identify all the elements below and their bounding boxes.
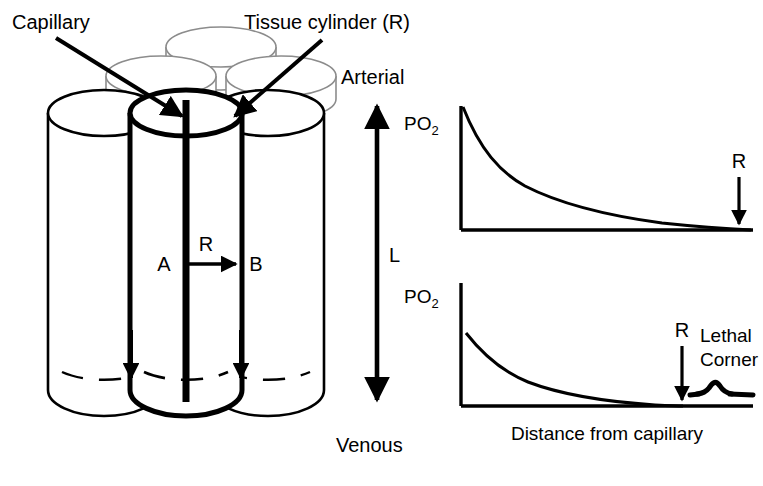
- tissue-cylinder-label: Tissue cylinder (R): [244, 11, 410, 33]
- lower-x-axis-label: Distance from capillary: [511, 423, 704, 444]
- figure-canvas: B --> A R B Capillary Tissue cylinder (R…: [0, 0, 763, 486]
- upper-r-label: R: [732, 150, 746, 172]
- lower-r-label: R: [675, 319, 689, 341]
- point-a-label: A: [157, 253, 171, 275]
- krogh-cylinder-figure: B --> A R B Capillary Tissue cylinder (R…: [0, 0, 763, 486]
- radius-label: R: [199, 233, 213, 255]
- lethal-corner-label-line1: Lethal: [700, 325, 752, 346]
- lethal-corner-brace-right-arm: [730, 394, 753, 395]
- lethal-corner-label-line2: Corner: [700, 349, 759, 370]
- capillary-label: Capillary: [12, 11, 90, 33]
- venous-label: Venous: [336, 434, 403, 456]
- length-label: L: [389, 244, 400, 266]
- arterial-label: Arterial: [341, 66, 404, 88]
- point-b-label: B: [249, 253, 262, 275]
- lethal-corner-brace-left-arm: [690, 394, 699, 395]
